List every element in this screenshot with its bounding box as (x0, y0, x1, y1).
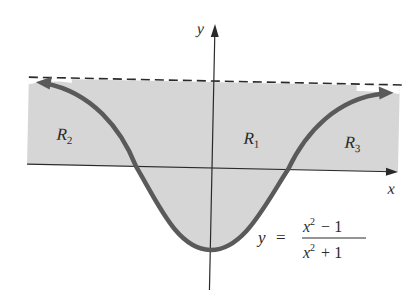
equation: y = x2− 1 x2+ 1 (256, 216, 366, 261)
equation-equals: = (276, 228, 286, 247)
y-axis-arrow-icon (211, 24, 219, 37)
x-axis-label: x (386, 180, 394, 197)
y-axis-label: y (195, 20, 205, 38)
equation-lhs: y (256, 228, 266, 247)
equation-denominator: x2+ 1 (302, 242, 342, 261)
figure: R2 R1 R3 y x y = x2− 1 x2+ 1 (0, 0, 415, 302)
equation-numerator: x2− 1 (302, 216, 342, 235)
